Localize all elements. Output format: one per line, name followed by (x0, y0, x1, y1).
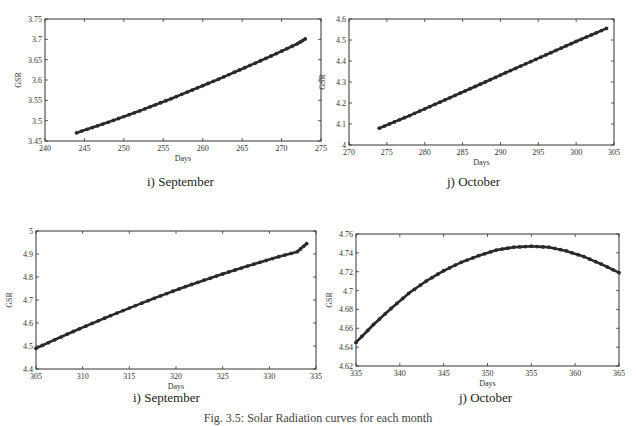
data-marker (477, 254, 481, 258)
y-axis-label: GSR (14, 72, 23, 88)
y-tick-label: 4.9 (23, 250, 33, 259)
line-chart-september-bottom: 3053103153203253303354.44.54.64.74.84.95… (0, 222, 330, 392)
data-marker (463, 89, 467, 93)
y-tick-label: 4.7 (343, 287, 353, 296)
data-marker (222, 75, 226, 79)
data-marker (238, 68, 242, 72)
y-tick-label: 4.64 (339, 343, 353, 352)
data-marker (285, 47, 289, 51)
data-marker (217, 77, 221, 81)
data-marker (59, 335, 63, 339)
x-tick-label: 305 (608, 148, 620, 157)
data-marker (117, 117, 121, 121)
gsr-line (77, 39, 306, 133)
data-marker (111, 118, 115, 122)
x-tick-label: 270 (276, 144, 288, 153)
x-tick-label: 320 (170, 372, 182, 381)
data-marker (605, 27, 609, 31)
data-marker (500, 247, 504, 251)
data-marker (589, 33, 593, 37)
data-marker (518, 245, 522, 249)
data-marker (504, 71, 508, 75)
x-tick-label: 300 (570, 148, 582, 157)
data-marker (473, 85, 477, 89)
data-marker (246, 264, 250, 268)
data-marker (493, 75, 497, 79)
y-axis-label: GSR (5, 292, 14, 308)
data-marker (433, 103, 437, 107)
x-tick-label: 340 (394, 369, 406, 378)
data-marker (271, 257, 275, 261)
data-marker (539, 55, 543, 59)
x-tick-label: 295 (532, 148, 544, 157)
data-marker (377, 126, 381, 130)
data-marker (243, 66, 247, 70)
data-marker (594, 260, 598, 264)
x-tick-label: 310 (77, 372, 89, 381)
data-marker (354, 341, 358, 345)
x-tick-label: 330 (263, 372, 275, 381)
plot-frame (349, 19, 614, 145)
data-marker (164, 99, 168, 103)
data-marker (201, 84, 205, 88)
plot-frame (36, 231, 316, 369)
line-chart-october-top: 27027528028529029530030544.14.24.34.44.5… (318, 0, 636, 170)
y-tick-label: 3.65 (28, 56, 42, 65)
data-marker (401, 297, 405, 301)
data-marker (132, 111, 136, 115)
y-tick-label: 3.55 (28, 96, 42, 105)
data-marker (227, 270, 231, 274)
data-marker (252, 262, 256, 266)
x-tick-label: 360 (569, 369, 581, 378)
x-tick-label: 345 (438, 369, 450, 378)
y-tick-label: 4.2 (336, 99, 346, 108)
data-marker (127, 306, 131, 310)
data-marker (377, 317, 381, 321)
data-marker (499, 73, 503, 77)
data-marker (453, 94, 457, 98)
data-marker (227, 73, 231, 77)
data-marker (387, 122, 391, 126)
data-marker (547, 245, 551, 249)
data-marker (140, 301, 144, 305)
data-marker (430, 276, 434, 280)
data-marker (269, 54, 273, 58)
data-marker (90, 322, 94, 326)
data-marker (103, 316, 107, 320)
data-marker (232, 70, 236, 74)
data-marker (248, 63, 252, 67)
x-tick-label: 290 (494, 148, 506, 157)
plot-frame (45, 19, 321, 141)
figure-caption: Fig. 3.5: Solar Radiation curves for eac… (0, 411, 636, 426)
data-marker (366, 329, 370, 333)
data-marker (569, 42, 573, 46)
data-marker (483, 80, 487, 84)
data-marker (488, 78, 492, 82)
y-tick-label: 3.5 (32, 117, 42, 126)
data-marker (372, 323, 376, 327)
data-marker (544, 53, 548, 57)
data-marker (512, 245, 516, 249)
data-marker (34, 346, 38, 350)
data-marker (289, 251, 293, 255)
y-tick-label: 4.72 (339, 268, 353, 277)
x-tick-label: 265 (236, 144, 248, 153)
chart-caption-top-right: j) October (447, 174, 500, 190)
data-marker (549, 51, 553, 55)
data-marker (185, 90, 189, 94)
data-marker (134, 304, 138, 308)
data-marker (159, 101, 163, 105)
data-marker (579, 37, 583, 41)
y-tick-label: 4.6 (23, 319, 33, 328)
data-marker (389, 307, 393, 311)
data-marker (280, 49, 284, 53)
y-tick-label: 3.75 (28, 15, 42, 24)
data-marker (594, 31, 598, 35)
chart-caption-bottom-left: i) September (133, 390, 200, 406)
data-marker (535, 245, 539, 249)
data-marker (519, 64, 523, 68)
data-marker (494, 248, 498, 252)
y-tick-label: 4.1 (336, 120, 346, 129)
data-marker (143, 107, 147, 111)
data-marker (478, 82, 482, 86)
